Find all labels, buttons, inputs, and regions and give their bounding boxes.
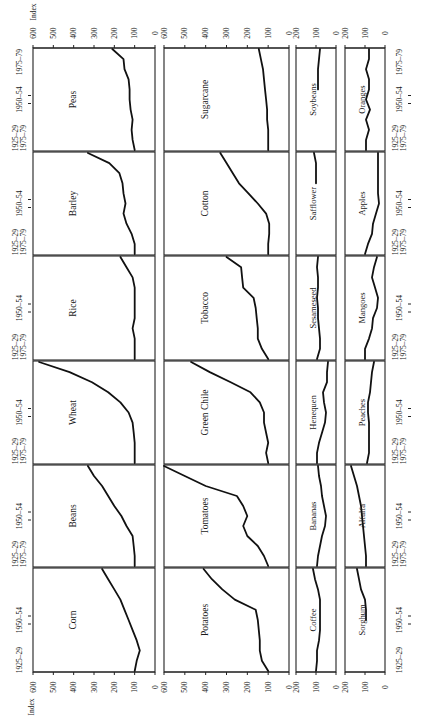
panel-title: Potatoes xyxy=(200,604,210,636)
panel-title: Peas xyxy=(68,90,78,108)
period-axis: 1950–541975–79 xyxy=(15,49,31,113)
panel-frame xyxy=(33,465,155,567)
series-line xyxy=(314,153,316,183)
period-tick-label: 1925–29 xyxy=(395,647,404,674)
panel-title: Oranges xyxy=(357,85,367,113)
panel-safflower: Safflower xyxy=(296,152,336,255)
panel-cotton: Cotton xyxy=(164,152,289,255)
index-tick-label: 200 xyxy=(341,681,350,693)
panel-frame xyxy=(33,568,155,672)
series-line xyxy=(120,257,134,359)
panel-wheat: Wheat xyxy=(33,361,155,464)
period-tick-label: 1950–54 xyxy=(395,503,404,530)
series-line xyxy=(367,362,374,463)
panel-frame xyxy=(164,568,289,672)
period-tick-label: 1975–79 xyxy=(15,49,24,76)
panel-soybeans: Soybeans xyxy=(296,48,336,151)
panel-sorghum: Sorghum xyxy=(345,568,385,672)
index-tick-label: 600 xyxy=(29,27,38,39)
index-axis-label: Index xyxy=(29,3,38,20)
panel-mangoes: Mangoes xyxy=(345,256,385,360)
panel-frame xyxy=(164,361,289,464)
period-tick-label: 1975–79 xyxy=(399,541,408,568)
series-line xyxy=(112,49,134,150)
index-tick-label: 300 xyxy=(222,27,231,39)
panel-tobacco: Tobacco xyxy=(164,256,289,360)
index-tick-label: 200 xyxy=(243,27,252,39)
index-tick-label: 0 xyxy=(151,685,160,689)
index-tick-label: 300 xyxy=(222,681,231,693)
index-tick-label: 100 xyxy=(361,681,370,693)
period-axis: 1950–541975–79 xyxy=(395,49,411,113)
index-axis: 0100200 xyxy=(292,672,341,693)
panel-frame xyxy=(33,152,155,255)
panel-coffee: Coffee xyxy=(296,568,336,672)
series-line xyxy=(220,153,269,254)
panel-title: Alfalfa xyxy=(357,504,367,528)
index-axis: 0100200 xyxy=(341,672,390,693)
panel-alfalfa: Alfalfa xyxy=(345,465,385,567)
panel-title: Beans xyxy=(68,504,78,528)
index-tick-label: 400 xyxy=(201,27,210,39)
period-tick-label: 1950–54 xyxy=(395,399,404,426)
index-tick-label: 500 xyxy=(180,681,189,693)
panel-frame xyxy=(164,152,289,255)
period-tick-label: 1925–29 xyxy=(15,647,24,674)
panel-frame xyxy=(164,465,289,567)
series-line xyxy=(164,466,268,566)
series-line xyxy=(317,466,326,566)
panel-title: Sugarcane xyxy=(200,80,210,120)
index-tick-label: 300 xyxy=(90,27,99,39)
index-axis: 0100200300400500600 xyxy=(160,27,294,48)
panel-frame xyxy=(33,361,155,464)
series-line xyxy=(318,49,320,89)
panel-peas: Peas xyxy=(33,48,155,151)
panel-title: Tobacco xyxy=(200,292,210,324)
period-tick-label: 1950–54 xyxy=(395,295,404,322)
index-tick-label: 0 xyxy=(151,31,160,35)
index-tick-label: 100 xyxy=(264,27,273,39)
series-line xyxy=(365,257,378,359)
panel-barley: Barley xyxy=(33,152,155,255)
index-tick-label: 100 xyxy=(361,27,370,39)
index-tick-label: 200 xyxy=(110,27,119,39)
period-tick-label: 1975–79 xyxy=(399,125,408,152)
index-tick-label: 400 xyxy=(69,27,78,39)
period-tick-label: 1975–79 xyxy=(19,541,28,568)
index-tick-label: 600 xyxy=(160,681,169,693)
index-tick-label: 500 xyxy=(180,27,189,39)
panel-title: Apples xyxy=(357,191,367,215)
panel-corn: Corn xyxy=(33,568,155,672)
period-axis: 1950–54 xyxy=(395,503,411,530)
index-tick-label: 100 xyxy=(130,27,139,39)
series-line xyxy=(317,362,328,463)
panel-frame xyxy=(164,48,289,151)
panel-peaches: Peaches xyxy=(345,361,385,464)
period-tick-label: 1975–79 xyxy=(399,229,408,256)
period-tick-label: 1975–79 xyxy=(19,438,28,465)
period-axis: 1950–54 xyxy=(15,295,31,322)
period-tick-label: 1975–79 xyxy=(19,229,28,256)
index-tick-label: 400 xyxy=(69,681,78,693)
index-axis-label: Index xyxy=(27,698,36,715)
period-axis: 1950–54 xyxy=(395,190,411,217)
index-tick-label: 200 xyxy=(243,681,252,693)
period-axis: 1950–54 xyxy=(395,399,411,426)
period-axis: 1950–54 xyxy=(15,399,31,426)
panel-title: Bananas xyxy=(308,502,318,531)
index-axis: 0100200 xyxy=(292,27,341,48)
panel-title: Henequen xyxy=(308,395,318,430)
panel-title: Cotton xyxy=(200,190,210,216)
panel-title: Barley xyxy=(68,191,78,217)
period-tick-label: 1950–54 xyxy=(15,190,24,217)
panel-title: Corn xyxy=(68,610,78,629)
index-axis: 0100200300400500600 xyxy=(29,27,160,48)
panel-tomatoes: Tomatoes xyxy=(164,465,289,567)
panel-oranges: Oranges xyxy=(345,48,385,151)
series-line xyxy=(365,153,379,254)
panel-sugarcane: Sugarcane xyxy=(164,48,289,151)
index-tick-label: 300 xyxy=(90,681,99,693)
period-tick-label: 1975–79 xyxy=(395,49,404,76)
panel-title: Rice xyxy=(68,299,78,316)
index-tick-label: 100 xyxy=(264,681,273,693)
